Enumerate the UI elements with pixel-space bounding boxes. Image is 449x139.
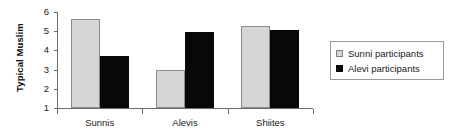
y-tick-label: 2 <box>35 84 49 94</box>
legend-item[interactable]: Alevi participants <box>336 61 438 76</box>
bar <box>241 26 270 108</box>
legend-swatch-sunni-icon <box>336 50 343 57</box>
x-tick-mark <box>313 109 314 114</box>
legend-item[interactable]: Sunni participants <box>336 46 438 61</box>
bar-chart: Typical Muslim 123456 SunnisAlevisShiite… <box>0 0 449 139</box>
y-axis-title: Typical Muslim <box>14 8 25 108</box>
x-tick-mark <box>142 109 143 114</box>
y-tick-label: 6 <box>35 7 49 17</box>
legend-swatch-alevi-icon <box>336 65 343 72</box>
x-axis-label: Sunnis <box>60 117 140 128</box>
legend-label: Alevi participants <box>348 63 420 74</box>
bar <box>100 56 129 108</box>
x-axis-label: Alevis <box>145 117 225 128</box>
bars-layer <box>57 12 313 108</box>
x-axis-line <box>57 108 313 109</box>
legend-label: Sunni participants <box>348 48 424 59</box>
y-tick-label: 3 <box>35 65 49 75</box>
y-tick-label: 5 <box>35 26 49 36</box>
bar <box>270 30 299 108</box>
x-axis-label: Shiites <box>230 117 310 128</box>
y-tick-label: 4 <box>35 45 49 55</box>
y-tick-label: 1 <box>35 103 49 113</box>
bar <box>185 32 214 108</box>
x-tick-mark <box>57 109 58 114</box>
x-tick-mark <box>228 109 229 114</box>
bar <box>71 19 100 108</box>
chart-legend: Sunni participants Alevi participants <box>330 41 444 80</box>
bar <box>156 70 185 108</box>
